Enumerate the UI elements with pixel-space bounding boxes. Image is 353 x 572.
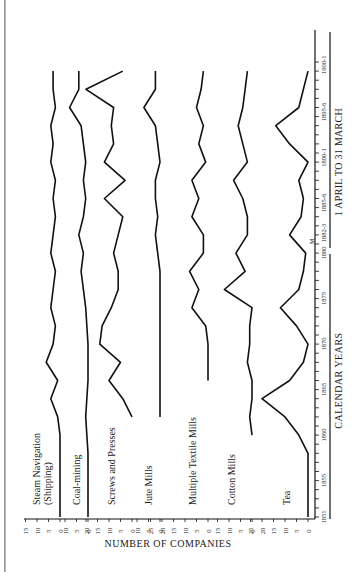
fiscal-axis-title: 1 APRIL TO 31 MARCH (333, 108, 344, 216)
series-label: Cotton Mills (226, 454, 237, 505)
count-tick-label: 20 (159, 528, 166, 535)
axes (24, 30, 330, 522)
series-lines (46, 71, 308, 517)
count-tick-label: 5 (193, 529, 200, 532)
series-line-steam-navigation-shipping- (46, 71, 60, 517)
year-tick-label: 1900-1 (320, 56, 327, 74)
count-tick-label: 25 (247, 528, 254, 535)
year-tick-label: 1895-6 (320, 102, 327, 121)
count-tick-label: 20 (83, 528, 90, 535)
series-line-multiple-textile-mills (190, 71, 208, 380)
marker-label: M (308, 238, 315, 244)
count-tick-label: 5 (237, 529, 244, 532)
count-tick-label: 5 (293, 529, 300, 532)
count-tick-label: 15 (270, 528, 277, 535)
count-tick-label: 15 (94, 528, 101, 535)
series-line-jute-mills (144, 71, 160, 417)
series-line-cotton-mills (224, 71, 252, 435)
axis-labels: 0510150510051015200510051015202505101505… (22, 56, 344, 549)
count-tick-label: 15 (22, 528, 29, 535)
count-tick-label: 10 (106, 528, 113, 535)
year-tick-label: 1880 (320, 247, 327, 260)
count-axis-title: NUMBER OF COMPANIES (105, 538, 232, 549)
year-tick-label: 1860 (320, 429, 327, 442)
series-line-screws-and-presses (86, 71, 132, 417)
year-tick-label: 1870 (320, 338, 327, 351)
year-tick-label: 1851 (320, 511, 327, 524)
count-tick-label: 0 (205, 529, 212, 532)
year-tick-label: 1875 (320, 292, 327, 305)
year-tick-label: 1865 (320, 383, 327, 396)
year-axis-title: CALENDAR YEARS (333, 332, 344, 428)
count-tick-label: 10 (282, 528, 289, 535)
series-label: Jute Mills (143, 465, 154, 505)
count-tick-label: 10 (226, 528, 233, 535)
count-tick-label: 10 (62, 528, 69, 535)
count-tick-label: 20 (259, 528, 266, 535)
count-tick-label: 5 (73, 529, 80, 532)
count-tick-label: 10 (34, 528, 41, 535)
count-tick-label: 15 (170, 528, 177, 535)
series-label: Steam Navigation (31, 433, 42, 505)
count-tick-label: 0 (305, 529, 312, 532)
year-tick-label: 1885-6 (320, 193, 327, 212)
series-line-coal-mining (70, 71, 88, 517)
series-label: Tea (281, 490, 292, 505)
series-line-tea (262, 71, 308, 517)
series-label: Multiple Textile Mills (187, 417, 198, 505)
year-tick-label: 1882-3 (320, 224, 327, 242)
count-tick-label: 10 (134, 528, 141, 535)
series-label: (Shipping) (42, 462, 54, 505)
count-tick-label: 10 (182, 528, 189, 535)
chart-canvas: 0510150510051015200510051015202505101505… (0, 0, 353, 572)
series-label: Coal-mining (71, 454, 82, 505)
count-tick-label: 5 (45, 529, 52, 532)
series-label: Screws and Presses (106, 427, 117, 505)
count-tick-label: 5 (117, 529, 124, 532)
count-tick-label: 15 (214, 528, 221, 535)
year-tick-label: 1890-1 (320, 148, 327, 166)
year-tick-label: 1855 (320, 474, 327, 487)
count-tick-label: 25 (147, 528, 154, 535)
